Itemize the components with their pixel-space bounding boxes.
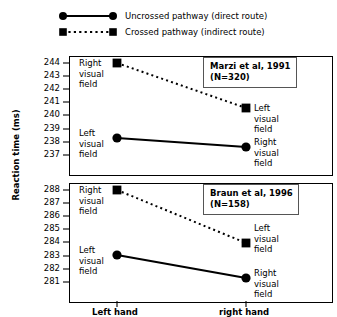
point-label-uncrossed-left-top: Left visual field — [79, 128, 104, 160]
point-label-uncrossed-right-bottom: Right visual field — [254, 268, 279, 300]
point-label-line: visual — [79, 196, 104, 207]
annotation-box-marzi: Marzi et al, 1991 (N=320) — [203, 57, 297, 88]
figure: Uncrossed pathway (direct route) Crossed… — [0, 0, 337, 317]
point-label-line: visual — [254, 148, 279, 159]
y-tick-label: 239 — [34, 124, 60, 133]
point-label-line: Right — [79, 58, 104, 69]
y-axis-title: Reaction time (ms) — [11, 100, 21, 210]
y-tick-label: 242 — [34, 84, 60, 93]
legend-sample-dotted-square-icon — [57, 24, 119, 40]
y-tick-label: 285 — [34, 224, 60, 233]
point-label-uncrossed-right-top: Right visual field — [254, 137, 279, 169]
point-label-line: field — [254, 158, 279, 169]
annotation-title: Braun et al, 1996 — [210, 188, 293, 199]
point-label-line: field — [254, 244, 279, 255]
point-label-crossed-left-top: Right visual field — [79, 58, 104, 90]
point-label-line: Left — [254, 223, 279, 234]
point-label-line: field — [79, 149, 104, 160]
x-tick-label-right-hand: right hand — [219, 307, 269, 317]
legend-label-uncrossed: Uncrossed pathway (direct route) — [125, 8, 267, 24]
annotation-box-braun: Braun et al, 1996 (N=158) — [203, 184, 299, 215]
y-tick-label: 243 — [34, 71, 60, 80]
y-tick-label: 283 — [34, 251, 60, 260]
y-tick-label: 244 — [34, 58, 60, 67]
y-tick-label: 286 — [34, 211, 60, 220]
y-tick-label: 282 — [34, 264, 60, 273]
y-tick-label: 284 — [34, 237, 60, 246]
point-label-line: visual — [79, 256, 104, 267]
legend-item-uncrossed: Uncrossed pathway (direct route) — [57, 8, 307, 24]
point-label-crossed-left-bottom: Right visual field — [79, 185, 104, 217]
point-label-line: field — [254, 289, 279, 300]
point-label-line: visual — [254, 279, 279, 290]
point-label-line: visual — [79, 139, 104, 150]
point-label-line: field — [79, 266, 104, 277]
annotation-subtitle: (N=320) — [210, 72, 291, 83]
legend-item-crossed: Crossed pathway (indirect route) — [57, 24, 307, 40]
point-label-line: Right — [79, 185, 104, 196]
legend-label-crossed: Crossed pathway (indirect route) — [125, 24, 265, 40]
point-label-line: Left — [79, 128, 104, 139]
y-tick-label: 281 — [34, 277, 60, 286]
point-label-line: field — [79, 206, 104, 217]
point-label-line: visual — [254, 114, 279, 125]
point-label-uncrossed-left-bottom: Left visual field — [79, 245, 104, 277]
point-label-line: field — [254, 124, 279, 135]
legend-sample-solid-circle-icon — [57, 8, 119, 24]
annotation-subtitle: (N=158) — [210, 199, 293, 210]
annotation-title: Marzi et al, 1991 — [210, 61, 291, 72]
y-tick-label: 288 — [34, 185, 60, 194]
point-label-line: Left — [79, 245, 104, 256]
y-tick-label: 241 — [34, 97, 60, 106]
y-tick-label: 238 — [34, 137, 60, 146]
y-tick-label: 237 — [34, 150, 60, 159]
point-label-line: Right — [254, 137, 279, 148]
x-tick-label-left-hand: Left hand — [92, 307, 138, 317]
point-label-line: visual — [254, 234, 279, 245]
legend: Uncrossed pathway (direct route) Crossed… — [57, 8, 307, 40]
point-label-line: visual — [79, 69, 104, 80]
y-tick-label: 240 — [34, 110, 60, 119]
point-label-line: Right — [254, 268, 279, 279]
point-label-crossed-right-top: Left visual field — [254, 103, 279, 135]
y-tick-label: 287 — [34, 198, 60, 207]
point-label-line: field — [79, 79, 104, 90]
point-label-crossed-right-bottom: Left visual field — [254, 223, 279, 255]
point-label-line: Left — [254, 103, 279, 114]
